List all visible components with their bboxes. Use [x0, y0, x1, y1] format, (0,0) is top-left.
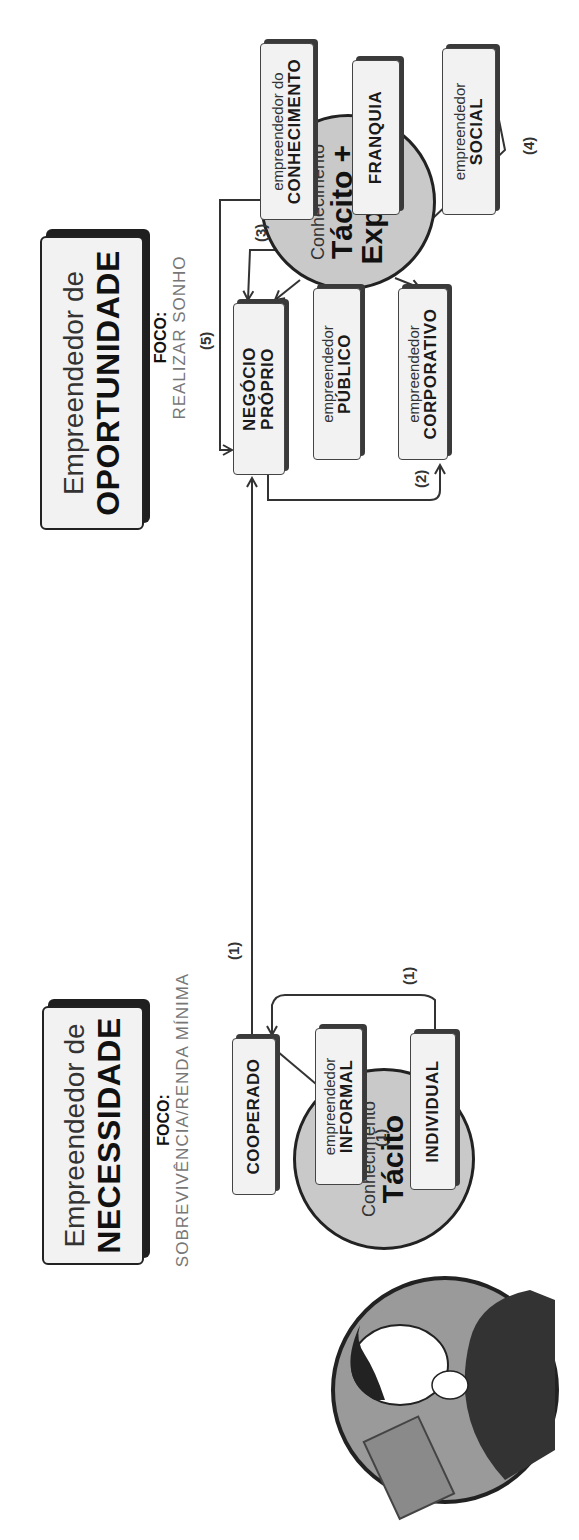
opportunity-title-line1: Empreendedor de: [58, 271, 90, 495]
necessity-focus-label: FOCO:: [155, 955, 173, 1285]
social-prefix: empreendedor: [452, 83, 468, 181]
type-individual: INDIVIDUAL: [410, 1033, 456, 1190]
transition-label-negocio-corporativo: (2): [412, 470, 429, 488]
type-franquia: FRANQUIA: [352, 60, 400, 215]
necessity-title-box: Empreendedor de NECESSIDADE: [42, 1006, 144, 1265]
cooperado-label: COOPERADO: [245, 1059, 263, 1175]
individual-label: INDIVIDUAL: [424, 1060, 442, 1162]
publico-prefix: empreendedor: [320, 325, 336, 423]
informal-prefix: empreendedor: [322, 1058, 338, 1156]
transition-label-publico-social: (4): [520, 137, 537, 155]
opportunity-focus-value: REALIZAR SONHO: [170, 235, 190, 440]
opportunity-title-line2: OPORTUNIDADE: [90, 250, 127, 516]
necessity-focus-value: SOBREVIVÊNCIA/RENDA MÍNIMA: [173, 955, 193, 1285]
opportunity-focus: FOCO: REALIZAR SONHO: [152, 235, 190, 440]
transition-label-conhecimento-negocio: (5): [197, 332, 214, 350]
transition-label-informal-individual: (1): [372, 1129, 389, 1147]
transition-label-franquia-negocio: (3): [252, 224, 269, 242]
transition-label-individual-cooperado: (1): [400, 967, 417, 985]
informal-label: INFORMAL: [338, 1060, 356, 1154]
conhecimento-prefix: empreendedor do: [270, 72, 286, 190]
transition-label-cooperado-negocio: (1): [225, 942, 242, 960]
type-negocio-proprio: NEGÓCIO PRÓPRIO: [233, 303, 285, 475]
type-publico: empreendedor PÚBLICO: [313, 288, 361, 460]
franquia-label: FRANQUIA: [367, 91, 385, 185]
type-conhecimento: empreendedor do CONHECIMENTO: [260, 43, 314, 220]
opportunity-focus-label: FOCO:: [152, 235, 170, 440]
negocio-label-2: PRÓPRIO: [259, 348, 277, 430]
person-illustration: [333, 1278, 557, 1519]
opportunity-title-box: Empreendedor de OPORTUNIDADE: [40, 236, 144, 530]
necessity-focus: FOCO: SOBREVIVÊNCIA/RENDA MÍNIMA: [155, 955, 193, 1285]
type-cooperado: COOPERADO: [232, 1038, 276, 1195]
social-label: SOCIAL: [468, 98, 486, 165]
corporativo-label: CORPORATIVO: [422, 309, 440, 440]
corporativo-prefix: empreendedor: [406, 325, 422, 423]
negocio-label-1: NEGÓCIO: [241, 347, 259, 431]
necessity-title-line1: Empreendedor de: [59, 1023, 91, 1247]
type-corporativo: empreendedor CORPORATIVO: [398, 288, 448, 460]
type-social: empreendedor SOCIAL: [442, 48, 496, 215]
conhecimento-label: CONHECIMENTO: [286, 59, 304, 204]
type-informal: empreendedor INFORMAL: [315, 1028, 363, 1185]
diagram-stage: Empreendedor de NECESSIDADE FOCO: SOBREV…: [0, 0, 579, 1540]
publico-label: PÚBLICO: [336, 334, 354, 414]
necessity-title-line2: NECESSIDADE: [91, 1017, 128, 1254]
